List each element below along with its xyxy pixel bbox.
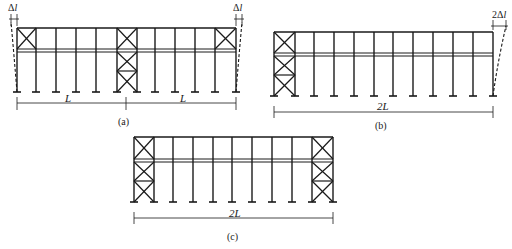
delta-label-b-right: 2Δl [492,9,506,20]
brace-left-full-c [134,137,154,202]
brace-left-full [274,32,295,96]
brace-right-top [215,28,236,49]
brace-middle [117,28,137,92]
caption-c: (c) [227,231,238,243]
delta-label-a-left: Δl [8,2,17,13]
brace-right-full-c [312,137,333,202]
dim-label-a-left: L [64,92,71,104]
dim-label-b: 2L [377,100,389,112]
delta-label-a-right: Δl [233,2,242,13]
panel-a [9,14,244,110]
deformed-right [236,22,242,92]
panel-b [270,20,508,118]
deformed-right-b [493,26,506,96]
deformed-left [11,22,17,92]
frame-diagrams: L L Δl Δl (a) [0,0,512,249]
dim-label-a-right: L [179,92,186,104]
dim-label-c: 2L [229,207,241,219]
caption-a: (a) [118,116,129,128]
brace-left-top [17,28,36,49]
caption-b: (b) [375,120,387,132]
